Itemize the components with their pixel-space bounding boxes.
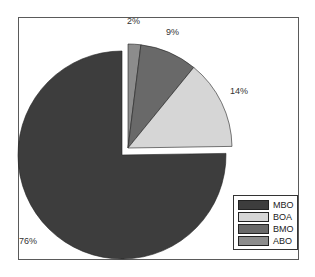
legend-label-mbo: MBO bbox=[273, 200, 294, 210]
legend-item-mbo: MBO bbox=[238, 200, 298, 211]
label-boa: 14% bbox=[230, 87, 248, 96]
legend-swatch-boa bbox=[238, 212, 269, 222]
label-abo: 2% bbox=[127, 17, 140, 26]
legend: MBO BOA BMO ABO bbox=[233, 195, 298, 250]
legend-item-bmo: BMO bbox=[238, 224, 298, 235]
legend-item-boa: BOA bbox=[238, 212, 298, 223]
legend-swatch-bmo bbox=[238, 224, 269, 234]
legend-item-abo: ABO bbox=[238, 236, 298, 247]
legend-swatch-abo bbox=[238, 236, 269, 246]
label-bmo: 9% bbox=[166, 28, 179, 37]
label-mbo: 76% bbox=[19, 237, 37, 246]
legend-label-boa: BOA bbox=[273, 212, 292, 222]
legend-swatch-mbo bbox=[238, 200, 269, 210]
legend-label-abo: ABO bbox=[273, 236, 292, 246]
legend-label-bmo: BMO bbox=[273, 224, 294, 234]
